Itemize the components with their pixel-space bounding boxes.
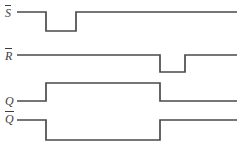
signal-label-q: Q — [5, 93, 14, 107]
signal-label-q-bar-text: Q — [5, 111, 14, 125]
signal-label-q-text: Q — [5, 93, 14, 107]
signal-label-r-bar-text: R — [5, 48, 12, 62]
timing-diagram-figure: S R Q Q — [0, 0, 242, 150]
waveform-q-bar — [17, 120, 237, 140]
waveform-s-bar — [17, 12, 237, 31]
timing-waveform-canvas — [0, 0, 242, 150]
signal-label-r-bar: R — [5, 48, 12, 62]
waveform-q — [17, 83, 237, 101]
signal-label-s-bar-text: S — [5, 5, 11, 19]
signal-label-s-bar: S — [5, 5, 11, 19]
waveform-r-bar — [17, 55, 237, 72]
signal-label-q-bar: Q — [5, 111, 14, 125]
